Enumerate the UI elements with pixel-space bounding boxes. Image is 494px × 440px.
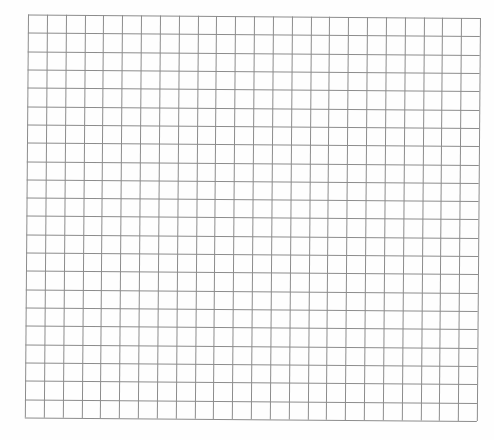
- grid-horizontal-line: [25, 418, 477, 422]
- grid-lines: [25, 14, 480, 422]
- graph-grid: [25, 14, 480, 421]
- graph-paper-page: [0, 0, 494, 440]
